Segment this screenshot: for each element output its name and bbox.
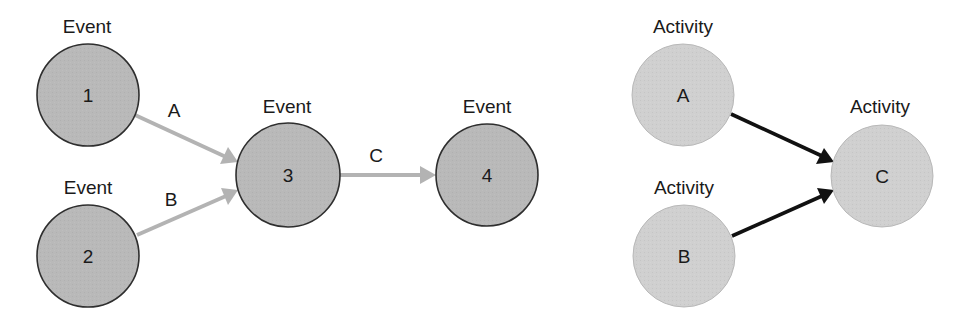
node-label: 1: [83, 85, 94, 106]
arrowhead-icon: [420, 166, 436, 184]
node-caption: Activity: [850, 96, 911, 117]
activity-node-c: Activity C: [831, 96, 933, 227]
edge-label-c: C: [369, 145, 383, 166]
edge-a-to-c: [731, 114, 834, 164]
node-label: 2: [83, 246, 94, 267]
event-node-4: Event 4: [436, 96, 538, 226]
node-caption: Event: [463, 96, 512, 117]
node-caption: Activity: [653, 16, 714, 37]
node-caption: Event: [64, 177, 113, 198]
node-caption: Event: [63, 16, 112, 37]
event-node-1: Event 1: [37, 16, 139, 146]
node-caption: Event: [263, 96, 312, 117]
node-label: C: [875, 166, 889, 187]
event-node-3: Event 3: [236, 96, 340, 227]
node-label: A: [677, 85, 690, 106]
diagram-canvas: A B C Event 1 Event 2 Event: [0, 0, 971, 329]
edge-b-to-c: [732, 188, 834, 236]
edge-label-b: B: [165, 189, 178, 210]
event-node-2: Event 2: [37, 177, 139, 307]
edge-a: A: [135, 100, 238, 164]
node-label: 4: [482, 165, 493, 186]
edge-c: C: [339, 145, 436, 184]
activity-node-b: Activity B: [633, 177, 735, 307]
edge-label-a: A: [168, 100, 181, 121]
activity-on-arrow-diagram: A B C Event 1 Event 2 Event: [37, 16, 538, 307]
node-label: 3: [283, 165, 294, 186]
activity-on-node-diagram: Activity A Activity B Activity C: [632, 16, 933, 307]
node-caption: Activity: [654, 177, 715, 198]
node-label: B: [678, 246, 691, 267]
edge-b: B: [137, 188, 238, 235]
activity-node-a: Activity A: [632, 16, 734, 146]
